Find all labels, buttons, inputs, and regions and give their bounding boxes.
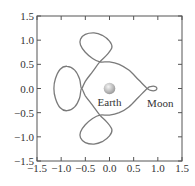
x-tick-label: 0.5 [127,162,141,174]
earth-icon [104,83,116,95]
y-tick-label: −0.5 [14,107,34,119]
earth-label: Earth [98,96,122,108]
x-tick-label: −1.0 [51,162,71,174]
y-tick-label: 0.0 [20,83,34,95]
y-tick-label: 0.5 [20,58,34,70]
x-tick-label: 0.0 [103,162,117,174]
orbit-chart: −1.5−1.0−0.50.00.51.01.5−1.5−1.0−0.50.00… [0,0,195,186]
y-tick-label: −1.5 [14,155,34,167]
y-tick-label: 1.5 [20,10,34,22]
y-tick-label: 1.0 [20,34,34,46]
moon-label: Moon [147,97,174,109]
y-tick-label: −1.0 [14,131,34,143]
x-tick-label: 1.5 [175,162,189,174]
x-tick-label: 1.0 [151,162,165,174]
x-tick-label: −0.5 [75,162,95,174]
